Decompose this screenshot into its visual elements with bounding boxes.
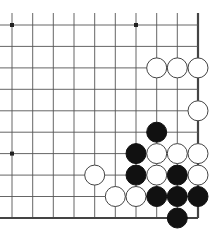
white-stone[interactable] — [147, 165, 167, 185]
white-stone[interactable] — [188, 58, 208, 78]
white-stone[interactable] — [167, 58, 187, 78]
go-board[interactable] — [0, 0, 213, 234]
white-stone[interactable] — [147, 58, 167, 78]
white-stone[interactable] — [147, 144, 167, 164]
black-stone[interactable] — [126, 144, 146, 164]
black-stone[interactable] — [188, 187, 208, 207]
white-stone[interactable] — [105, 187, 125, 207]
black-stone[interactable] — [147, 187, 167, 207]
white-stone[interactable] — [126, 187, 146, 207]
white-stone[interactable] — [85, 165, 105, 185]
black-stone[interactable] — [167, 165, 187, 185]
black-stone[interactable] — [167, 208, 187, 228]
stones-layer — [85, 58, 208, 228]
black-stone[interactable] — [147, 122, 167, 142]
black-stone[interactable] — [167, 187, 187, 207]
white-stone[interactable] — [188, 165, 208, 185]
star-point — [134, 23, 138, 27]
white-stone[interactable] — [188, 144, 208, 164]
star-point — [10, 152, 14, 156]
star-point — [10, 23, 14, 27]
board-grid — [0, 13, 198, 218]
white-stone[interactable] — [188, 101, 208, 121]
white-stone[interactable] — [167, 144, 187, 164]
black-stone[interactable] — [126, 165, 146, 185]
